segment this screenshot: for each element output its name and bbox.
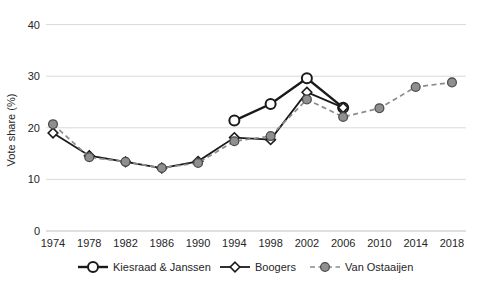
x-tick-label: 2014 <box>403 237 427 249</box>
x-tick-label: 1990 <box>186 237 210 249</box>
data-point-marker-filled-circle <box>339 113 348 122</box>
legend-item-van-ostaaijen: Van Ostaaijen <box>310 261 413 273</box>
data-point-marker-diamond <box>48 128 58 138</box>
data-series <box>48 73 456 173</box>
x-tick-label: 1998 <box>258 237 282 249</box>
x-tick-label: 2010 <box>367 237 391 249</box>
series-line <box>234 78 343 120</box>
data-point-marker-filled-circle <box>321 263 330 272</box>
data-point-marker-circle <box>266 99 276 109</box>
data-point-marker-circle <box>88 262 98 272</box>
data-point-marker-filled-circle <box>375 104 384 113</box>
data-point-marker-filled-circle <box>157 164 166 173</box>
legend-label: Van Ostaaijen <box>345 261 413 273</box>
x-tick-label: 2018 <box>440 237 464 249</box>
vote-share-chart: 010203040 197419781982198619901994199820… <box>0 0 480 288</box>
x-tick-label: 2006 <box>331 237 355 249</box>
vote-share-chart-canvas: 010203040 197419781982198619901994199820… <box>0 0 480 288</box>
data-point-marker-filled-circle <box>121 157 130 166</box>
data-point-marker-filled-circle <box>411 83 420 92</box>
data-point-marker-filled-circle <box>194 158 203 167</box>
y-tick-label: 40 <box>28 19 40 31</box>
data-point-marker-filled-circle <box>448 78 457 87</box>
series-line <box>53 82 452 168</box>
gridlines <box>46 25 466 231</box>
x-tick-label: 1978 <box>77 237 101 249</box>
y-tick-label: 0 <box>34 225 40 237</box>
legend-item-boogers: Boogers <box>220 261 296 273</box>
x-tick-label: 1986 <box>150 237 174 249</box>
data-point-marker-circle <box>229 116 239 126</box>
y-axis-tick-labels: 010203040 <box>28 19 40 237</box>
x-axis-tick-labels: 1974197819821986199019941998200220062010… <box>41 237 464 249</box>
legend-label: Boogers <box>255 261 296 273</box>
y-tick-label: 10 <box>28 173 40 185</box>
x-tick-label: 1982 <box>113 237 137 249</box>
legend-item-kiesraad-janssen: Kiesraad & Janssen <box>78 261 211 273</box>
data-point-marker-filled-circle <box>230 137 239 146</box>
y-tick-label: 30 <box>28 70 40 82</box>
data-point-marker-filled-circle <box>49 120 58 129</box>
data-point-marker-filled-circle <box>266 132 275 141</box>
data-point-marker-filled-circle <box>85 153 94 162</box>
data-point-marker-diamond <box>230 262 240 272</box>
x-tick-label: 1974 <box>41 237 65 249</box>
x-tick-label: 2002 <box>295 237 319 249</box>
x-tick-label: 1994 <box>222 237 246 249</box>
data-point-marker-filled-circle <box>302 95 311 104</box>
legend-label: Kiesraad & Janssen <box>113 261 211 273</box>
y-tick-label: 20 <box>28 122 40 134</box>
data-point-marker-circle <box>302 73 312 83</box>
legend: Kiesraad & JanssenBoogersVan Ostaaijen <box>78 261 413 273</box>
y-axis-title: Vote share (%) <box>5 94 17 167</box>
